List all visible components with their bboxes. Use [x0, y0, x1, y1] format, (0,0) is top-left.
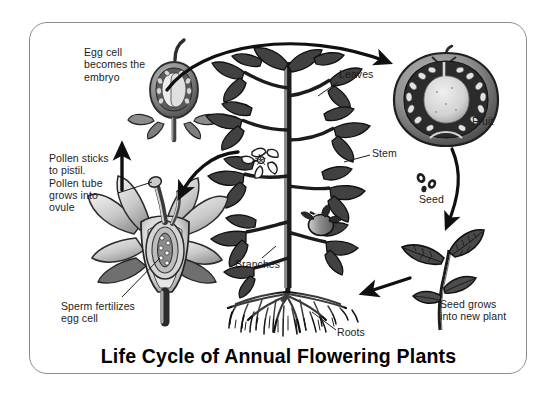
mature-plant-illustration	[206, 48, 370, 336]
label-seed: Seed	[419, 193, 444, 205]
leader-branches	[262, 246, 276, 258]
label-sperm: Sperm fertilizes egg cell	[61, 300, 135, 325]
label-pollen: Pollen sticks to pistil. Pollen tube gro…	[49, 152, 109, 213]
seeds-illustration	[415, 172, 438, 193]
label-branches: Branches	[235, 258, 280, 270]
label-stem: Stem	[372, 147, 397, 159]
ripe-fruit-illustration	[394, 46, 498, 146]
arrow-fruit-to-seedling	[447, 149, 458, 226]
label-egg-cell: Egg cell becomes the embryo	[84, 46, 145, 83]
figure-title: Life Cycle of Annual Flowering Plants	[0, 345, 557, 368]
life-cycle-diagram: Egg cell becomes the embryo Pollen stick…	[0, 0, 557, 401]
label-fruit: Fruit	[472, 115, 494, 127]
label-new-plant: Seed grows into new plant	[440, 298, 506, 323]
arrow-seedling-to-plant	[364, 278, 410, 293]
label-roots: Roots	[337, 326, 365, 338]
label-leaves: Leaves	[339, 68, 373, 80]
